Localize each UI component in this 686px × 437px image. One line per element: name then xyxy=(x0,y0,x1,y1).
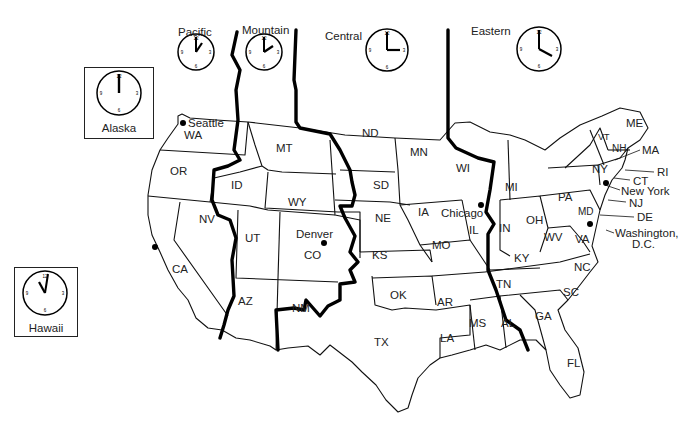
new-york-dot xyxy=(603,180,609,186)
state-sc: SC xyxy=(563,287,579,299)
state-tx: TX xyxy=(374,337,389,349)
state-wi: WI xyxy=(456,163,470,175)
state-la: LA xyxy=(440,333,454,345)
hawaii-inset: Hawaii xyxy=(14,267,78,337)
state-ri: RI xyxy=(657,167,669,179)
state-mn: MN xyxy=(410,147,428,159)
us-map: 12369 12369 12369 12369 12369 12369 xyxy=(0,0,686,437)
state-wv: WV xyxy=(544,232,563,244)
seattle-dot xyxy=(180,120,186,126)
state-ut: UT xyxy=(245,233,260,245)
state-in: IN xyxy=(499,223,511,235)
state-wy: WY xyxy=(288,197,307,209)
state-nm: NM xyxy=(292,303,310,315)
california-dot xyxy=(152,244,158,250)
svg-text:12: 12 xyxy=(536,30,542,35)
city-seattle: Seattle xyxy=(188,118,224,130)
state-ks: KS xyxy=(372,250,387,262)
state-or: OR xyxy=(170,166,187,178)
state-az: AZ xyxy=(238,296,253,308)
city-new-york: New York xyxy=(621,186,670,198)
central-label: Central xyxy=(325,31,362,43)
state-co: CO xyxy=(304,250,321,262)
state-il: IL xyxy=(469,225,479,237)
state-sd: SD xyxy=(373,180,389,192)
state-nh: NH xyxy=(612,144,626,154)
state-nv: NV xyxy=(199,214,215,226)
state-ga: GA xyxy=(535,311,552,323)
city-denver: Denver xyxy=(296,229,333,241)
state-fl: FL xyxy=(567,358,580,370)
state-ar: AR xyxy=(437,297,453,309)
state-nc: NC xyxy=(574,262,591,274)
state-vt: VT xyxy=(598,133,610,142)
state-oh: OH xyxy=(526,215,543,227)
state-ms: MS xyxy=(469,318,486,330)
city-chicago: Chicago xyxy=(441,208,483,220)
state-tn: TN xyxy=(496,279,511,291)
svg-text:12: 12 xyxy=(261,36,267,41)
state-ny: NY xyxy=(592,164,608,176)
eastern-label: Eastern xyxy=(471,26,511,38)
city-washington-2: D.C. xyxy=(632,239,655,251)
state-mo: MO xyxy=(432,240,451,252)
alaska-inset: Alaska xyxy=(84,67,154,139)
state-nd: ND xyxy=(362,128,379,140)
mountain-central-boundary xyxy=(276,30,358,350)
state-ok: OK xyxy=(390,290,407,302)
state-pa: PA xyxy=(558,192,573,204)
pacific-label: Pacific xyxy=(178,27,212,39)
state-mi: MI xyxy=(505,182,518,194)
svg-text:12: 12 xyxy=(384,31,390,36)
time-zone-boundaries xyxy=(212,30,528,350)
denver-dot xyxy=(321,240,327,246)
state-ca: CA xyxy=(172,264,188,276)
state-al: AL xyxy=(501,318,515,330)
hawaii-label: Hawaii xyxy=(15,322,77,334)
state-ne: NE xyxy=(375,213,391,225)
state-ia: IA xyxy=(418,207,429,219)
washington-dc-dot xyxy=(587,221,593,227)
state-md: MD xyxy=(578,207,594,217)
state-va: VA xyxy=(575,234,590,246)
state-nj: NJ xyxy=(629,198,643,210)
mountain-label: Mountain xyxy=(242,25,289,37)
state-me: ME xyxy=(626,118,643,130)
state-mt: MT xyxy=(276,143,293,155)
state-wa: WA xyxy=(184,130,202,142)
alaska-label: Alaska xyxy=(85,122,153,134)
state-id: ID xyxy=(231,180,243,192)
state-de: DE xyxy=(637,212,653,224)
state-ma: MA xyxy=(642,145,659,157)
state-ky: KY xyxy=(514,253,529,265)
